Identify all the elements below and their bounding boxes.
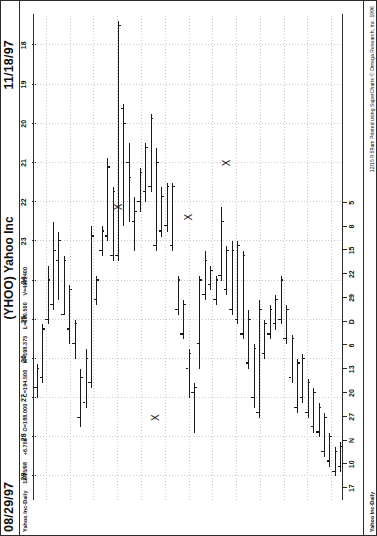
- ohlc-close-tick: [140, 172, 143, 173]
- ohlc-open-tick: [45, 319, 48, 320]
- ohlc-close-tick: [205, 260, 208, 261]
- ohlc-bar: [297, 359, 298, 413]
- ohlc-bar: [37, 364, 38, 398]
- ohlc-open-tick: [170, 245, 173, 246]
- date-tick-label: D: [348, 319, 355, 324]
- date-axis: 1710N2720136D29221585: [343, 14, 363, 500]
- ohlc-close-tick: [37, 368, 40, 369]
- ohlc-open-tick: [235, 319, 238, 320]
- ohlc-close-tick: [313, 392, 316, 393]
- date-tick-label: 15: [348, 247, 355, 255]
- ohlc-bar: [118, 21, 119, 261]
- ohlc-close-tick: [264, 323, 267, 324]
- ohlc-close-tick: [286, 309, 289, 310]
- ohlc-bar: [237, 241, 238, 324]
- ohlc-close-tick: [281, 279, 284, 280]
- ohlc-close-tick: [86, 358, 89, 359]
- ohlc-open-tick: [191, 392, 194, 393]
- price-tick-label: 19: [20, 81, 27, 89]
- ohlc-open-tick: [208, 284, 211, 285]
- ohlc-open-tick: [278, 319, 281, 320]
- ohlc-close-tick: [48, 279, 51, 280]
- date-tick: [343, 440, 347, 441]
- ohlc-open-tick: [197, 343, 200, 344]
- ohlc-open-tick: [132, 221, 135, 222]
- ohlc-bar: [178, 276, 179, 315]
- ohlc-open-tick: [153, 245, 156, 246]
- ohlc-bar: [264, 320, 265, 359]
- ohlc-open-tick: [94, 299, 97, 300]
- ohlc-close-tick: [221, 221, 224, 222]
- ohlc-open-tick: [61, 314, 64, 315]
- ohlc-open-tick: [50, 304, 53, 305]
- ohlc-open-tick: [246, 362, 249, 363]
- price-tick-label: 22: [20, 198, 27, 206]
- price-tick-label: 28: [20, 433, 27, 441]
- ohlc-close-tick: [292, 338, 295, 339]
- ohlc-open-tick: [175, 309, 178, 310]
- ohlc-open-tick: [316, 431, 319, 432]
- date-tick: [343, 249, 347, 250]
- ohlc-close-tick: [243, 255, 246, 256]
- ohlc-open-tick: [126, 162, 129, 163]
- ohlc-close-tick: [183, 304, 186, 305]
- ohlc-bar: [259, 300, 260, 418]
- frame-footer-rule: [363, 0, 364, 536]
- ohlc-bar: [183, 300, 184, 339]
- ohlc-bar: [292, 335, 293, 384]
- ohlc-bar: [172, 183, 173, 252]
- ohlc-close-tick: [96, 279, 99, 280]
- date-gridline: [93, 14, 94, 500]
- date-gridline: [70, 14, 71, 500]
- ohlc-close-tick: [259, 309, 262, 310]
- date-tick: [343, 273, 347, 274]
- frame-right-rule: [0, 0, 377, 1]
- ohlc-open-tick: [321, 451, 324, 452]
- ohlc-open-tick: [294, 407, 297, 408]
- ohlc-bar: [308, 379, 309, 418]
- ohlc-close-tick: [297, 362, 300, 363]
- ohlc-bar: [199, 276, 200, 369]
- ohlc-open-tick: [218, 275, 221, 276]
- date-tick: [343, 416, 347, 417]
- ohlc-open-tick: [273, 323, 276, 324]
- ohlc-close-tick: [270, 309, 273, 310]
- date-tick: [343, 345, 347, 346]
- ohlc-bar: [42, 324, 43, 383]
- ohlc-close-tick: [167, 186, 170, 187]
- ohlc-open-tick: [159, 230, 162, 231]
- ohlc-close-tick: [232, 250, 235, 251]
- date-tick: [343, 368, 347, 369]
- date-tick: [343, 392, 347, 393]
- ohlc-bar: [129, 143, 130, 221]
- ohlc-bar: [91, 226, 92, 388]
- ohlc-close-tick: [91, 235, 94, 236]
- ohlc-open-tick: [67, 328, 70, 329]
- ohlc-close-tick: [151, 118, 154, 119]
- price-tick-label: 27: [20, 394, 27, 402]
- ohlc-open-tick: [105, 235, 108, 236]
- date-tick-label: 13: [348, 365, 355, 373]
- ohlc-close-tick: [107, 167, 110, 168]
- ohlc-bar: [194, 383, 195, 432]
- price-tick-label: 25: [20, 316, 27, 324]
- ohlc-open-tick: [251, 397, 254, 398]
- ohlc-close-tick: [189, 353, 192, 354]
- date-gridline: [331, 14, 332, 500]
- ohlc-bar: [145, 143, 146, 202]
- ohlc-bar: [140, 168, 141, 212]
- ohlc-close-tick: [324, 417, 327, 418]
- ohlc-bar: [69, 285, 70, 344]
- ohlc-open-tick: [164, 225, 167, 226]
- ohlc-open-tick: [186, 368, 189, 369]
- ohlc-open-tick: [283, 338, 286, 339]
- ohlc-open-tick: [229, 309, 232, 310]
- ohlc-close-tick: [118, 25, 121, 26]
- date-tick-label: 5: [348, 201, 355, 205]
- ohlc-close-tick: [172, 186, 175, 187]
- ohlc-bar: [156, 148, 157, 251]
- date-gridline: [260, 14, 261, 500]
- ohlc-open-tick: [99, 250, 102, 251]
- ohlc-bar: [107, 158, 108, 241]
- price-tick-label: 29: [20, 473, 27, 481]
